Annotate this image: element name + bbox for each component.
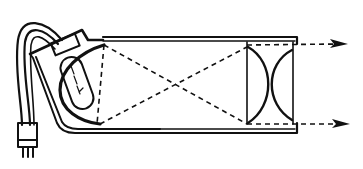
plug [18,123,37,157]
arrow-icon [332,119,350,128]
projector-diagram: optical-projector-schematic [0,0,363,169]
diagram-canvas [0,0,363,169]
light-rays [97,44,340,124]
output-beam-arrows [330,39,350,128]
lamp-housing [30,30,160,133]
condenser-lens-pair [247,42,293,124]
